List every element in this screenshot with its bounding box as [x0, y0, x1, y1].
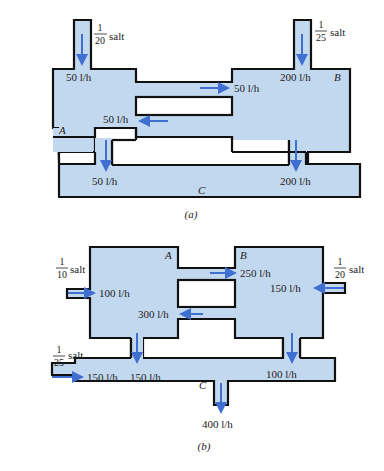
hole-b-middle — [178, 280, 235, 307]
tank-label-b-b: B — [240, 249, 247, 261]
frac-b-inlet-c-num: 1 — [57, 344, 62, 355]
label-b-inlet-b-unit: salt — [349, 263, 364, 275]
figure-b: 1 10 salt 1 20 salt 1 25 salt 100 l/h 15… — [52, 247, 364, 453]
label-b-b-to-c: 100 l/h — [266, 368, 297, 380]
tank-label-b-c: C — [199, 379, 207, 391]
label-a-inlet-b-flow: 200 l/h — [280, 71, 311, 83]
label-a-b-to-a: 50 l/h — [103, 113, 129, 125]
label-b-outlet-c: 400 l/h — [202, 418, 233, 430]
caption-a: (a) — [185, 208, 198, 221]
label-a-a-to-b: 50 l/h — [234, 82, 260, 94]
label-b-a-to-c: 150 l/h — [130, 371, 161, 383]
frac-b-inlet-b-num: 1 — [338, 256, 343, 267]
frac-a-inlet-a-num: 1 — [98, 22, 103, 33]
frac-a-inlet-a-den: 20 — [95, 35, 105, 46]
label-b-b-to-a: 300 l/h — [138, 308, 169, 320]
label-b-inlet-c-flow: 150 l/h — [87, 371, 118, 383]
frac-b-inlet-c-den: 25 — [54, 357, 64, 368]
label-b-a-to-b: 250 l/h — [240, 267, 271, 279]
label-b-inlet-c-unit: salt — [68, 349, 83, 361]
mixing-tanks-figure: 1 20 salt 1 25 salt 50 l/h 200 l/h 50 l/… — [0, 0, 384, 471]
label-b-inlet-b-flow: 150 l/h — [270, 282, 301, 294]
frac-b-inlet-a-num: 1 — [60, 256, 65, 267]
frac-a-inlet-b-num: 1 — [319, 19, 324, 30]
frac-b-inlet-a-den: 10 — [57, 269, 67, 280]
tank-label-a-c: C — [198, 184, 206, 196]
caption-b: (b) — [198, 440, 211, 453]
label-a-inlet-b-unit: salt — [330, 26, 345, 38]
label-a-b-to-c: 200 l/h — [280, 175, 311, 187]
label-b-inlet-a-unit: salt — [70, 263, 85, 275]
tank-label-a-a: A — [58, 124, 66, 136]
tank-label-b-a: A — [164, 249, 172, 261]
label-a-inlet-a-flow: 50 l/h — [66, 71, 92, 83]
frac-a-inlet-b-den: 25 — [316, 32, 326, 43]
tank-label-a-b: B — [334, 71, 341, 83]
label-a-inlet-a-unit: salt — [109, 30, 124, 42]
frac-b-inlet-b-den: 20 — [335, 269, 345, 280]
hole-a-upper — [136, 97, 232, 115]
label-a-a-to-c: 50 l/h — [92, 175, 118, 187]
figure-a: 1 20 salt 1 25 salt 50 l/h 200 l/h 50 l/… — [53, 19, 360, 221]
label-b-inlet-a-flow: 100 l/h — [99, 287, 130, 299]
